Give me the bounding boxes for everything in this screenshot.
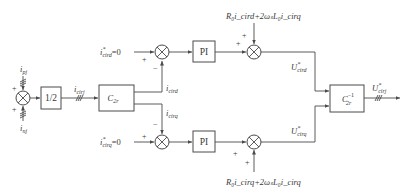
ipj-label: ipj xyxy=(20,64,27,75)
d-axis-voltage-summing-junction xyxy=(247,45,261,59)
q-axis-error-summing-junction xyxy=(155,135,169,149)
icirj-signal: icirj xyxy=(61,84,98,101)
svg-text:PI: PI xyxy=(200,137,208,147)
plus-sign: + xyxy=(245,158,250,167)
icirq-feedback: icirq − xyxy=(134,104,178,134)
svg-text:1/2: 1/2 xyxy=(45,93,57,103)
minus-sign: − xyxy=(153,120,158,129)
ucirj-label: U*cirj xyxy=(372,82,387,94)
plus-sign: + xyxy=(142,132,147,141)
icird-ref-label: i*cird=0 xyxy=(100,46,121,58)
input-summing-junction xyxy=(16,91,30,105)
icirq-ref-label: i*cirq=0 xyxy=(100,136,121,148)
ff-d-label: R₀i_cird+2ωₛL₀i_cirq xyxy=(225,11,302,21)
plus-sign: + xyxy=(12,105,17,114)
plus-sign: + xyxy=(242,31,247,40)
inj-input: inj + xyxy=(12,105,27,134)
minus-sign: − xyxy=(153,64,158,73)
plus-sign: + xyxy=(236,39,241,48)
c2r-inverse-transform-block: C−12r xyxy=(330,85,364,112)
ucirq-label: U*cirq xyxy=(291,125,307,137)
triple-slash-icon xyxy=(375,95,382,101)
icird-reference: i*cird=0 + xyxy=(100,46,154,64)
ucird-label: U*cird xyxy=(291,61,308,73)
control-block-diagram: ipj + inj + 1/2 icirj xyxy=(0,0,409,196)
svg-text:PI: PI xyxy=(200,47,208,57)
c2r-transform-block: C2r xyxy=(99,85,134,111)
triple-slash-icon xyxy=(76,95,83,101)
icirq-reference: i*cirq=0 + xyxy=(100,132,154,148)
inj-label: inj xyxy=(20,123,27,134)
ucirq-signal: U*cirq xyxy=(261,106,329,142)
icird-feedback: icird − xyxy=(134,61,179,94)
ucird-signal: U*cird xyxy=(261,52,329,91)
pi-controller-q: PI xyxy=(193,131,215,152)
plus-sign: + xyxy=(233,149,238,158)
triple-slash-icon xyxy=(20,79,26,86)
plus-sign: + xyxy=(142,55,147,64)
d-axis-error-summing-junction xyxy=(155,45,169,59)
pi-controller-d: PI xyxy=(193,41,215,62)
triple-slash-icon xyxy=(20,111,26,118)
plus-sign: + xyxy=(12,84,17,93)
q-axis-voltage-summing-junction xyxy=(247,135,261,149)
half-gain-block: 1/2 xyxy=(41,87,61,109)
icirq-label: icirq xyxy=(166,108,178,119)
icird-label: icird xyxy=(166,83,179,94)
ipj-input: ipj + xyxy=(12,64,27,93)
icirj-label: icirj xyxy=(74,84,85,95)
ucirj-output: U*cirj xyxy=(364,82,400,101)
ff-q-label: R₀i_cirq+2ωₛL₀i_cirq xyxy=(225,177,302,187)
